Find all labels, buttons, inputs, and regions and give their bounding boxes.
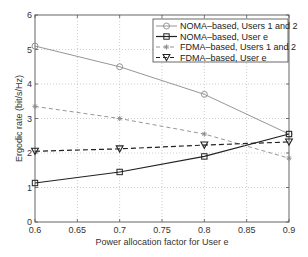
y-axis-label: Ergodic rate (bit/s/Hz) xyxy=(14,75,24,162)
legend-label: NOMA–based, Users 1 and 2 xyxy=(180,21,298,31)
legend-label: FDMA–based, User e xyxy=(180,53,267,63)
line-chart: 0.60.650.70.750.80.850.90123456Power all… xyxy=(0,0,308,257)
series-2-marker xyxy=(286,156,291,161)
series-2-marker xyxy=(202,131,207,136)
y-tick-label: 2 xyxy=(27,148,32,158)
legend-marker-2 xyxy=(164,44,169,49)
y-tick-label: 3 xyxy=(27,114,32,124)
y-tick-label: 5 xyxy=(27,45,32,55)
legend-label: NOMA–based, User e xyxy=(180,32,268,42)
y-tick-label: 6 xyxy=(27,10,32,20)
x-tick-label: 0.85 xyxy=(238,225,256,235)
x-tick-label: 0.9 xyxy=(283,225,296,235)
y-tick-label: 1 xyxy=(27,183,32,193)
series-2-marker xyxy=(117,116,122,121)
x-tick-label: 0.75 xyxy=(153,225,171,235)
y-tick-label: 0 xyxy=(27,217,32,227)
series-2-marker xyxy=(32,104,37,109)
x-tick-label: 0.8 xyxy=(198,225,211,235)
chart: 0.60.650.70.750.80.850.90123456Power all… xyxy=(0,0,308,257)
x-axis-label: Power allocation factor for User e xyxy=(95,237,228,247)
x-tick-label: 0.65 xyxy=(69,225,87,235)
x-tick-label: 0.7 xyxy=(113,225,126,235)
legend-label: FDMA–based, Users 1 and 2 xyxy=(180,42,296,52)
y-tick-label: 4 xyxy=(27,79,32,89)
